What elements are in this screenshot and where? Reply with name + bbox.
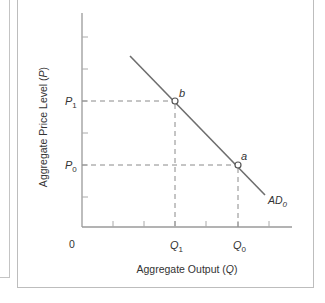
point-a-marker (235, 162, 241, 168)
x-axis-ticks (113, 221, 269, 227)
point-b-label: b (179, 87, 185, 99)
point-b-marker (172, 98, 178, 104)
reference-lines (82, 101, 238, 227)
q0-label: Q0 (233, 239, 247, 254)
ad0-label: AD0 (267, 194, 288, 209)
ad0-curve (130, 56, 265, 195)
point-a-label: a (241, 150, 247, 162)
q1-label: Q1 (170, 239, 184, 254)
origin-label: 0 (69, 238, 75, 250)
aggregate-demand-diagram: b a AD0 P1 P0 0 Q1 Q0 Aggregate Output (… (0, 0, 325, 303)
y-axis-title: Aggregate Price Level (P) (37, 67, 49, 187)
p1-label: P1 (65, 95, 77, 110)
p0-label: P0 (65, 159, 77, 174)
y-axis-ticks (82, 37, 88, 197)
x-axis-title: Aggregate Output (Q) (137, 263, 238, 275)
